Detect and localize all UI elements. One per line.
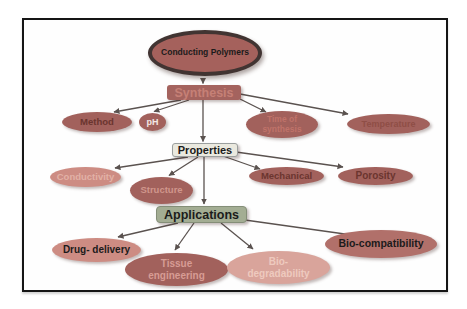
node-porosity-label: Porosity (355, 170, 395, 181)
node-conducting-polymers-label: Conducting Polymers (161, 48, 249, 58)
node-bio-degradability-label: Bio-degradability (241, 256, 317, 278)
node-drug-delivery: Drug- delivery (52, 238, 141, 262)
node-temperature-label: Temperature (362, 119, 416, 129)
node-conductivity-label: Conductivity (57, 172, 115, 183)
node-properties-label: Properties (178, 144, 232, 156)
node-method-label: Method (80, 117, 114, 128)
node-mechanical-label: Mechanical (261, 171, 312, 182)
node-properties: Properties (172, 143, 238, 157)
node-temperature: Temperature (347, 114, 430, 134)
node-structure: Structure (130, 177, 193, 204)
node-synthesis-label: Synthesis (174, 86, 233, 100)
node-structure-label: Structure (140, 185, 182, 196)
node-method: Method (62, 112, 132, 132)
node-applications: Applications (156, 206, 247, 223)
node-conducting-polymers: Conducting Polymers (148, 30, 262, 76)
node-ph: pH (139, 113, 166, 131)
diagram-canvas: Conducting Polymers Synthesis Method pH … (0, 0, 467, 309)
node-ph-label: pH (147, 117, 159, 127)
node-applications-label: Applications (164, 208, 239, 222)
node-tissue-engineering-label: Tissue engineering (142, 258, 212, 280)
node-bio-compatibility-label: Bio-compatibility (338, 238, 423, 250)
node-drug-delivery-label: Drug- delivery (63, 244, 130, 255)
node-tissue-engineering: Tissue engineering (125, 253, 228, 286)
node-mechanical: Mechanical (249, 167, 324, 185)
node-porosity: Porosity (338, 167, 413, 185)
node-time-of-synthesis: Time of synthesis (246, 111, 318, 138)
node-bio-degradability: Bio-degradability (227, 251, 330, 284)
node-conductivity: Conductivity (50, 167, 121, 187)
node-synthesis: Synthesis (167, 85, 241, 100)
node-bio-compatibility: Bio-compatibility (325, 230, 437, 258)
node-time-of-synthesis-label: Time of synthesis (259, 115, 305, 134)
